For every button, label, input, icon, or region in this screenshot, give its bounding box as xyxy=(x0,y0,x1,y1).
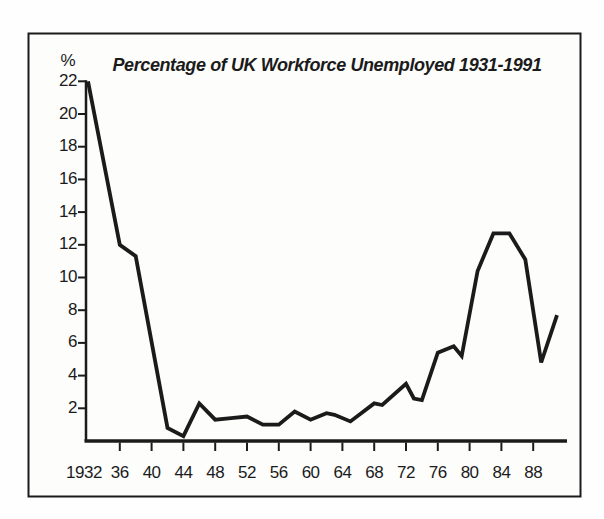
x-tick-label: 72 xyxy=(397,463,415,482)
chart-frame xyxy=(29,34,581,497)
y-axis-unit-label: % xyxy=(60,51,75,70)
y-tick-label: 16 xyxy=(59,169,77,188)
x-tick-label: 68 xyxy=(365,463,383,482)
x-tick-label: 44 xyxy=(174,463,192,482)
y-tick-label: 2 xyxy=(68,398,77,417)
chart-canvas: Percentage of UK Workforce Unemployed 19… xyxy=(0,0,604,519)
y-tick-label: 18 xyxy=(59,136,77,155)
y-tick-label: 4 xyxy=(68,365,77,384)
x-tick-label: 84 xyxy=(492,463,510,482)
x-tick-label: 64 xyxy=(333,463,351,482)
y-tick-label: 6 xyxy=(68,332,77,351)
y-tick-label: 14 xyxy=(59,202,77,221)
x-tick-label: 56 xyxy=(270,463,288,482)
y-tick-label: 22 xyxy=(59,71,77,90)
x-tick-label: 60 xyxy=(302,463,320,482)
y-tick-label: 12 xyxy=(59,234,77,253)
y-tick-label: 8 xyxy=(68,300,77,319)
unemployment-chart-figure: Percentage of UK Workforce Unemployed 19… xyxy=(0,0,604,519)
x-tick-label: 36 xyxy=(111,463,129,482)
x-tick-label: 76 xyxy=(429,463,447,482)
x-tick-label: 80 xyxy=(461,463,479,482)
x-tick-label: 1932 xyxy=(66,463,102,482)
x-tick-label: 40 xyxy=(143,463,161,482)
x-tick-label: 88 xyxy=(524,463,542,482)
chart-title: Percentage of UK Workforce Unemployed 19… xyxy=(112,55,541,75)
x-tick-label: 52 xyxy=(238,463,256,482)
y-tick-label: 20 xyxy=(59,104,77,123)
x-tick-label: 48 xyxy=(206,463,224,482)
y-tick-label: 10 xyxy=(59,267,77,286)
